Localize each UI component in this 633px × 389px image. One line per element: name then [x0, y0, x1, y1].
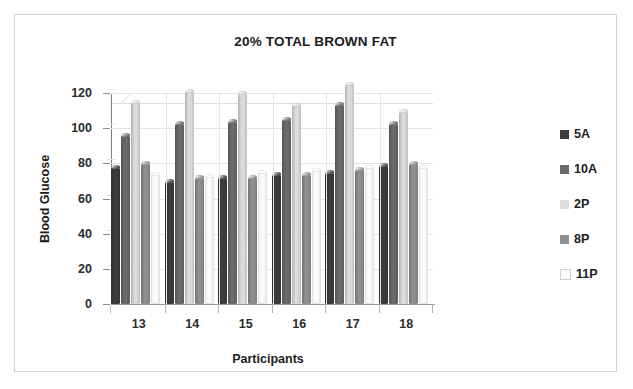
chart-frame: 20% TOTAL BROWN FAT 020406080100120 1314… [14, 14, 617, 372]
bar-cap [131, 100, 140, 104]
y-axis-title: Blood Glucose [38, 155, 52, 243]
bar-8p-18[interactable] [409, 163, 418, 304]
bar-8p-15[interactable] [248, 177, 257, 304]
x-axis-tick-label-17: 17 [346, 317, 360, 331]
bar-10a-16[interactable] [282, 119, 291, 304]
bar-cap [151, 172, 160, 176]
y-axis-tick-label: 120 [71, 86, 103, 100]
bar-cap [312, 168, 321, 172]
bars-layer: 131415161718 [112, 93, 433, 304]
bar-group: 16 [273, 93, 327, 304]
x-axis-tick-label-15: 15 [239, 317, 253, 331]
y-axis-tick-label: 40 [78, 227, 103, 241]
bar-cap [195, 175, 204, 179]
bar-8p-14[interactable] [195, 177, 204, 304]
bar-10a-17[interactable] [335, 104, 344, 304]
y-axis-tick-label: 80 [78, 156, 103, 170]
x-axis-tick [165, 304, 166, 313]
legend-label: 2P [574, 197, 589, 211]
bar-cap [258, 170, 267, 174]
plot-floor [111, 304, 435, 313]
x-axis-tick [432, 304, 433, 313]
bar-cap [292, 103, 301, 107]
bar-cap [248, 175, 257, 179]
y-axis-tick [103, 234, 110, 235]
legend-label: 5A [574, 127, 590, 141]
x-axis-tick [218, 304, 219, 313]
group-separator [326, 93, 327, 304]
legend-swatch-icon [560, 165, 569, 174]
x-axis-tick-label-16: 16 [292, 317, 306, 331]
bar-5a-13[interactable] [111, 167, 120, 304]
bar-10a-15[interactable] [228, 121, 237, 304]
bar-cap [365, 165, 374, 169]
bar-cap [111, 165, 120, 169]
bar-11p-13[interactable] [151, 174, 160, 304]
bar-2p-17[interactable] [345, 84, 354, 304]
legend-swatch-icon [560, 235, 569, 244]
bar-group: 15 [219, 93, 273, 304]
bar-10a-14[interactable] [175, 123, 184, 304]
y-axis-tick [103, 128, 110, 129]
bar-11p-18[interactable] [419, 167, 428, 304]
bar-cap [335, 102, 344, 106]
legend: 5A10A2P8P11P [560, 125, 630, 300]
legend-item-8p[interactable]: 8P [560, 230, 630, 248]
legend-label: 11P [576, 267, 598, 281]
bar-group: 14 [166, 93, 220, 304]
gridline-riser [107, 89, 116, 90]
bar-cap [175, 121, 184, 125]
plot-area: 020406080100120 131415161718 [103, 85, 433, 313]
bar-2p-13[interactable] [131, 102, 140, 304]
legend-item-11p[interactable]: 11P [560, 265, 630, 283]
bar-cap [141, 161, 150, 165]
bar-11p-14[interactable] [205, 176, 214, 304]
legend-item-10a[interactable]: 10A [560, 160, 630, 178]
y-axis-tick [103, 93, 110, 94]
bar-cap [345, 82, 354, 86]
group-separator [380, 93, 381, 304]
bar-cap [205, 174, 214, 178]
bar-11p-15[interactable] [258, 172, 267, 304]
bar-group: 17 [326, 93, 380, 304]
y-axis-tick [103, 163, 110, 164]
bar-10a-18[interactable] [389, 123, 398, 304]
bar-group: 13 [112, 93, 166, 304]
bar-8p-16[interactable] [302, 174, 311, 304]
chart-title: 20% TOTAL BROWN FAT [15, 34, 616, 49]
group-separator [219, 93, 220, 304]
bar-2p-18[interactable] [399, 111, 408, 304]
bar-cap [238, 91, 247, 95]
bar-cap [409, 161, 418, 165]
bar-11p-16[interactable] [312, 170, 321, 304]
bar-cap [185, 89, 194, 93]
x-axis-tick [379, 304, 380, 313]
bar-8p-13[interactable] [141, 163, 150, 304]
group-separator [166, 93, 167, 304]
legend-item-2p[interactable]: 2P [560, 195, 630, 213]
bar-10a-13[interactable] [121, 135, 130, 304]
bar-cap [419, 165, 428, 169]
bar-cap [389, 121, 398, 125]
bar-cap [355, 167, 364, 171]
bar-2p-16[interactable] [292, 105, 301, 304]
legend-item-5a[interactable]: 5A [560, 125, 630, 143]
bar-cap [399, 109, 408, 113]
bar-cap [282, 117, 291, 121]
x-axis-tick-label-14: 14 [185, 317, 199, 331]
y-axis-tick-label: 0 [85, 297, 103, 311]
legend-label: 8P [574, 232, 589, 246]
group-separator [273, 93, 274, 304]
x-axis-tick [272, 304, 273, 313]
legend-swatch-icon [560, 200, 569, 209]
bar-2p-14[interactable] [185, 91, 194, 304]
bar-11p-17[interactable] [365, 167, 374, 304]
bar-2p-15[interactable] [238, 93, 247, 304]
legend-label: 10A [574, 162, 597, 176]
y-axis-tick-label: 60 [78, 192, 103, 206]
bar-8p-17[interactable] [355, 169, 364, 304]
bar-cap [302, 172, 311, 176]
legend-swatch-icon [560, 269, 571, 280]
legend-swatch-icon [560, 130, 569, 139]
y-axis-tick [103, 269, 110, 270]
